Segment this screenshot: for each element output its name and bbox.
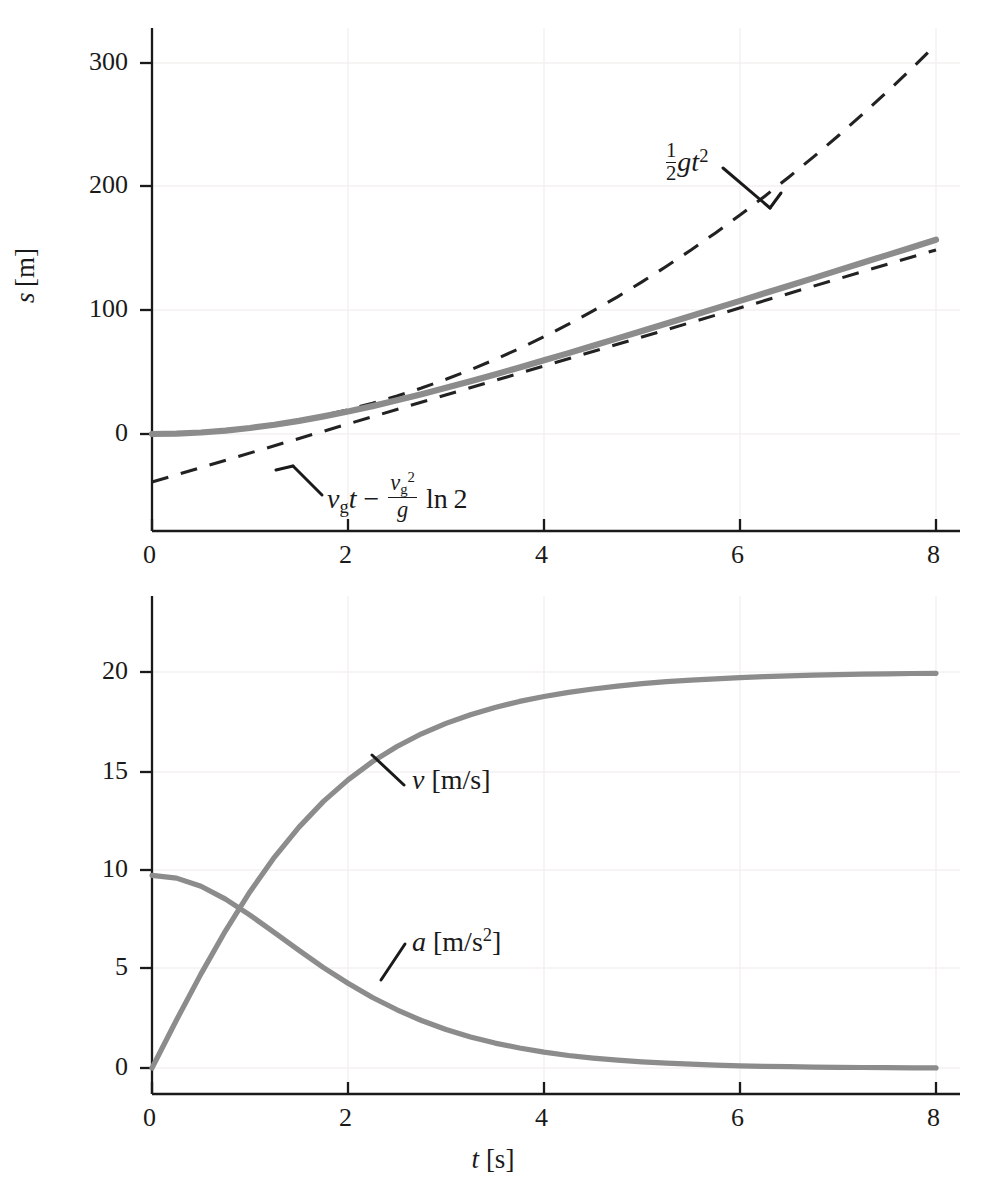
x-axis-title-unit: [s] [486, 1144, 515, 1174]
bottom-panel-x-axis [152, 1082, 960, 1094]
free-fall-g: g [677, 146, 691, 177]
acceleration-var: a [412, 926, 426, 957]
asymptote-numerator: vg2 [388, 470, 417, 497]
top-y-tick-100: 100 [56, 296, 128, 322]
top-y-axis-title-var: s [10, 292, 40, 303]
bottom-x-tick-6: 6 [731, 1105, 744, 1131]
asymptote-minus: − [363, 483, 379, 514]
top-x-tick-4: 4 [535, 542, 548, 568]
top-panel-x-axis [152, 519, 960, 531]
leader-free-fall [723, 168, 781, 208]
free-fall-exponent: 2 [699, 146, 708, 166]
top-x-tick-8: 8 [927, 542, 940, 568]
plot-canvas [0, 0, 986, 1194]
asymptote-fraction: vg2g [388, 470, 417, 521]
bottom-y-tick-10: 10 [56, 856, 128, 882]
leader-velocity [372, 755, 404, 785]
top-panel-gridlines [152, 28, 960, 531]
asymptote-v: v [327, 483, 339, 514]
top-y-axis-title-unit: [m] [10, 248, 40, 287]
velocity-var: v [412, 764, 424, 795]
velocity-unit: [m/s] [431, 764, 490, 795]
top-y-tick-200: 200 [56, 172, 128, 198]
bottom-panel-gridlines [152, 596, 960, 1094]
annotation-acceleration: a [m/s2] [412, 926, 501, 956]
asymptote-ln: ln [426, 483, 448, 514]
asymptote-two: 2 [453, 483, 467, 514]
physics-figure: 300 200 100 0 0 2 4 6 8 s [m] 1 2 gt2 vg… [0, 0, 986, 1194]
bottom-y-tick-5: 5 [56, 954, 128, 980]
x-axis-title: t [s] [472, 1146, 515, 1173]
free-fall-t: t [691, 146, 699, 177]
asymptote-denominator: g [388, 497, 417, 521]
leader-asymptote [276, 466, 322, 495]
top-y-tick-0: 0 [56, 420, 128, 446]
top-panel-y-axis [140, 28, 152, 531]
bottom-y-tick-0: 0 [56, 1054, 128, 1080]
bottom-x-tick-8: 8 [927, 1105, 940, 1131]
bottom-y-tick-15: 15 [56, 758, 128, 784]
acceleration-unit-close: ] [492, 926, 501, 957]
bottom-x-tick-0: 0 [143, 1105, 156, 1131]
bottom-panel-y-axis [140, 596, 152, 1094]
annotation-asymptote: vgt − vg2g ln 2 [327, 470, 467, 521]
bottom-x-tick-2: 2 [339, 1105, 352, 1131]
leader-acceleration [381, 944, 405, 980]
top-x-tick-6: 6 [731, 542, 744, 568]
bottom-x-tick-4: 4 [535, 1105, 548, 1131]
bottom-y-tick-20: 20 [56, 658, 128, 684]
top-y-axis-title: s [m] [12, 226, 39, 326]
one-half-fraction: 1 2 [666, 140, 676, 185]
x-axis-title-var: t [472, 1144, 480, 1174]
asymptote-v-subscript: g [339, 497, 348, 517]
top-x-tick-2: 2 [339, 542, 352, 568]
annotation-velocity: v [m/s] [412, 766, 491, 794]
acceleration-unit-exponent: 2 [483, 925, 492, 945]
top-y-tick-300: 300 [56, 49, 128, 75]
top-x-tick-0: 0 [143, 542, 156, 568]
annotation-free-fall: 1 2 gt2 [666, 140, 708, 185]
acceleration-unit-open: [m/s [433, 926, 483, 957]
